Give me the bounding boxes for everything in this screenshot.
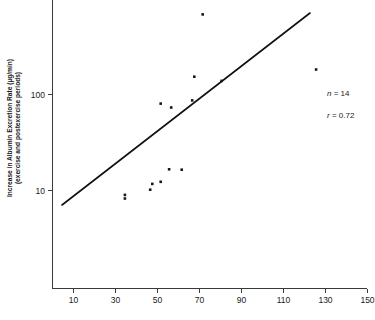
data-point: [159, 102, 162, 105]
x-tick-label-90: 90: [237, 295, 247, 305]
sample-size-operator: =: [331, 89, 340, 98]
y-tick-label-10: 10: [36, 186, 46, 196]
plot-background: [0, 0, 375, 320]
correlation-annotation: r = 0.72: [327, 111, 355, 120]
data-point: [201, 13, 204, 16]
data-point: [168, 168, 171, 171]
data-point: [193, 75, 196, 78]
correlation-value: 0.72: [339, 111, 355, 120]
y-axis-title: Increase in Albumin Excretion Rate (µg/m…: [6, 59, 22, 197]
data-point: [315, 68, 318, 71]
data-point: [159, 181, 162, 184]
sample-size-value: 14: [341, 89, 350, 98]
y-axis-title-line2: (exercise and postexercise periods): [14, 72, 22, 184]
figure-container: 100 10 10 30 50 70 90 110 130 150 In: [0, 0, 375, 320]
data-point: [124, 197, 127, 200]
data-point: [180, 168, 183, 171]
data-point: [124, 194, 127, 197]
x-tick-label-30: 30: [111, 295, 121, 305]
y-axis-title-line1: Increase in Albumin Excretion Rate (µg/m…: [6, 59, 14, 197]
x-tick-label-10: 10: [69, 295, 79, 305]
data-point: [191, 99, 194, 102]
data-point: [170, 106, 173, 109]
x-tick-label-130: 130: [318, 295, 332, 305]
x-tick-label-70: 70: [195, 295, 205, 305]
data-point: [220, 80, 223, 83]
x-tick-label-50: 50: [153, 295, 163, 305]
y-tick-label-100: 100: [31, 90, 45, 100]
x-tick-label-150: 150: [360, 295, 374, 305]
scatter-plot: 100 10 10 30 50 70 90 110 130 150 In: [0, 0, 375, 320]
data-point: [151, 183, 154, 186]
sample-size-annotation: n = 14: [327, 89, 350, 98]
data-point: [149, 188, 152, 191]
correlation-operator: =: [330, 111, 339, 120]
x-tick-label-110: 110: [277, 295, 291, 305]
